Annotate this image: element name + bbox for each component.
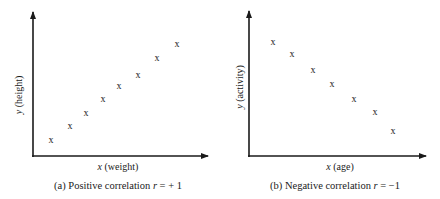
data-point-marker: x	[84, 107, 89, 118]
caption-b: (b) Negative correlation r = −1	[270, 180, 400, 192]
data-point-marker: x	[311, 64, 316, 75]
data-point-marker: x	[330, 78, 335, 89]
data-point-marker: x	[271, 36, 276, 47]
data-point-marker: x	[101, 93, 106, 104]
x-axis-label-a: x (weight)	[97, 161, 139, 173]
caption-a: (a) Positive correlation r = + 1	[54, 180, 182, 192]
data-points-b: xxxxxxx	[271, 36, 396, 136]
data-point-marker: x	[136, 69, 141, 80]
data-point-marker: x	[68, 120, 73, 131]
data-point-marker: x	[175, 38, 180, 49]
chart-panel-a: xxxxxxxx y (height) x (weight) (a) Posit…	[13, 12, 208, 192]
chart-panel-b: xxxxxxx y (activity) x (age) (b) Negativ…	[234, 11, 426, 192]
data-point-marker: x	[290, 48, 295, 59]
y-axis-label-b: y (activity)	[234, 65, 246, 110]
data-point-marker: x	[391, 125, 396, 136]
data-points-a: xxxxxxxx	[49, 38, 180, 145]
data-point-marker: x	[155, 52, 160, 63]
data-point-marker: x	[373, 106, 378, 117]
x-axis-label-b: x (age)	[325, 161, 354, 173]
data-point-marker: x	[49, 134, 54, 145]
y-axis-label-a: y (height)	[13, 76, 25, 116]
correlation-figure: xxxxxxxx y (height) x (weight) (a) Posit…	[0, 0, 440, 199]
data-point-marker: x	[352, 93, 357, 104]
data-point-marker: x	[117, 80, 122, 91]
